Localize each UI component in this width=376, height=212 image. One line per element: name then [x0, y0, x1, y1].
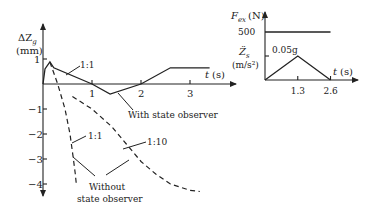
annotation-leader-without-2	[106, 160, 129, 175]
left-y-tick-label: −3	[28, 154, 43, 165]
left-y-unit: (mm)	[16, 45, 43, 56]
left-x-tick-label: 3	[187, 88, 193, 99]
right-force-value-label: 500	[238, 27, 255, 37]
right-accel-label: Z̈s	[238, 46, 250, 60]
right-accel-peak-label: 0.05g	[272, 45, 298, 55]
left-x-tick-label: 1	[89, 88, 95, 99]
annotation-with-observer: With state observer	[128, 110, 218, 120]
left-x-label: t(s)	[205, 69, 225, 80]
annotation-leader-without-1	[73, 157, 95, 176]
annotation-1to1-without: 1:1	[88, 131, 102, 141]
right-force-label: Fex(N)	[230, 10, 265, 24]
left-chart: 1231−1−2−3−4 ΔZg (mm) t(s) 1:1 With stat…	[16, 24, 236, 204]
annotation-leader-1to1-without	[72, 136, 86, 143]
annotation-1to10: 1:10	[147, 137, 167, 147]
annotation-without: Without	[89, 182, 126, 192]
series-line-1	[50, 62, 76, 184]
series-line-0	[43, 62, 210, 94]
right-chart: 1.32.6 Fex(N) 500 Z̈s (m/s²) 0.05g t(s)	[230, 10, 358, 96]
left-y-tick-label: −4	[28, 179, 43, 190]
annotation-leader-1to1-with	[66, 66, 80, 75]
annotation-1to1-with: 1:1	[80, 60, 94, 70]
chart-figure: 1231−1−2−3−4 ΔZg (mm) t(s) 1:1 With stat…	[0, 0, 376, 212]
right-x-tick-label: 2.6	[324, 86, 339, 96]
left-y-tick-label: −1	[28, 104, 43, 115]
left-x-tick-label: 2	[138, 88, 144, 99]
right-accel-unit: (m/s²)	[232, 60, 259, 70]
annotation-leader-1to10	[123, 142, 146, 149]
left-y-tick-label: −2	[28, 129, 43, 140]
right-x-tick-label: 1.3	[291, 86, 306, 96]
annotation-state-observer: state observer	[77, 194, 143, 204]
right-x-label: t(s)	[333, 66, 353, 77]
annotation-leader-with-observer	[118, 93, 133, 110]
left-y-label: ΔZg	[18, 32, 37, 46]
